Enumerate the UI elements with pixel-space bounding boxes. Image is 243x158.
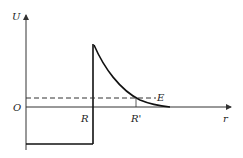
origin-label: O [13, 102, 21, 113]
energy-label: E [156, 92, 165, 103]
r-prime-label: R' [130, 113, 141, 124]
potential-diagram: U O r R R' E [0, 0, 243, 158]
y-axis-label: U [12, 11, 21, 22]
x-axis-label: r [223, 113, 229, 124]
r-label: R [80, 113, 89, 124]
